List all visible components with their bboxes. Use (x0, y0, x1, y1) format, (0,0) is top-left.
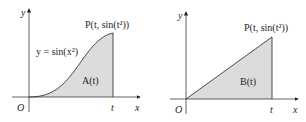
region-a (29, 33, 113, 97)
t-label: t (111, 102, 114, 113)
diagram: y x O t P(t, sin(t²)) y = sin(x²) A(t) y… (0, 0, 306, 122)
left-panel: y x O t P(t, sin(t²)) y = sin(x²) A(t) (12, 7, 140, 113)
region-label: A(t) (82, 75, 99, 87)
origin-label: O (17, 102, 24, 113)
x-axis-label: x (292, 104, 298, 115)
t-label: t (270, 104, 273, 115)
curve-label: y = sin(x²) (36, 46, 78, 58)
region-label: B(t) (240, 76, 256, 88)
x-axis-label: x (134, 102, 140, 113)
point-label: P(t, sin(t²)) (85, 19, 129, 31)
y-axis-label: y (20, 7, 26, 18)
origin-label: O (175, 104, 182, 115)
point-label: P(t, sin(t²)) (244, 22, 288, 34)
y-axis-label: y (177, 10, 183, 21)
right-panel: y x O t P(t, sin(t²)) B(t) (170, 10, 298, 115)
